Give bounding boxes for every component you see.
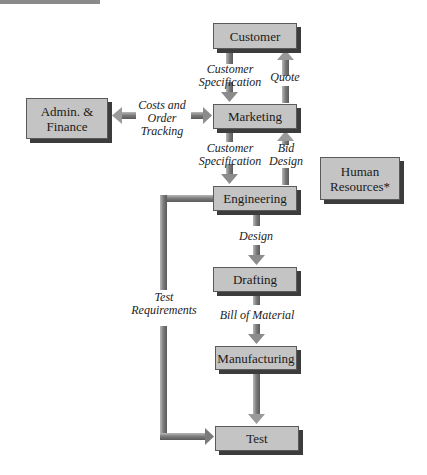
node-drafting-label: Drafting: [233, 272, 277, 287]
arrow-to-marketing: [191, 107, 212, 124]
node-admin-label-1: Admin. &: [41, 104, 94, 119]
edge-label-bid-design: Bid Design: [266, 142, 306, 168]
edge-label-customer-spec-1: Customer Specification: [192, 63, 268, 89]
node-manufacturing: Manufacturing: [215, 346, 297, 370]
node-engineering: Engineering: [213, 186, 297, 211]
node-customer: Customer: [213, 23, 297, 49]
node-admin-label-2: Finance: [46, 119, 87, 134]
node-admin-finance: Admin. & Finance: [26, 98, 108, 139]
node-manufacturing-label: Manufacturing: [217, 351, 294, 366]
arrow-engineering-to-test: [160, 195, 214, 445]
edge-label-line: Specification: [192, 155, 268, 168]
node-test: Test: [215, 426, 299, 451]
node-marketing-label: Marketing: [228, 109, 282, 124]
arrow-manufacturing-to-test: [248, 371, 265, 424]
node-marketing: Marketing: [213, 104, 297, 129]
node-engineering-label: Engineering: [223, 191, 287, 206]
edge-label-design: Design: [232, 230, 280, 243]
node-drafting: Drafting: [213, 267, 297, 292]
node-hr-label-2: Resources*: [330, 179, 390, 194]
edge-label-bill-of-material: Bill of Material: [212, 309, 302, 322]
edge-label-line: Design: [266, 155, 306, 168]
node-customer-label: Customer: [230, 29, 281, 44]
edge-label-line: Requirements: [126, 304, 202, 317]
node-hr-label-1: Human: [341, 164, 379, 179]
node-human-resources: Human Resources*: [320, 157, 400, 200]
edge-label-costs-order-tracking: Costs and Order Tracking: [132, 99, 192, 138]
node-test-label: Test: [246, 431, 267, 446]
edge-label-line: Tracking: [132, 125, 192, 138]
edge-label-line: Specification: [192, 76, 268, 89]
edge-label-quote: Quote: [268, 71, 302, 84]
edge-label-customer-spec-2: Customer Specification: [192, 142, 268, 168]
edge-label-test-requirements: Test Requirements: [126, 291, 202, 317]
